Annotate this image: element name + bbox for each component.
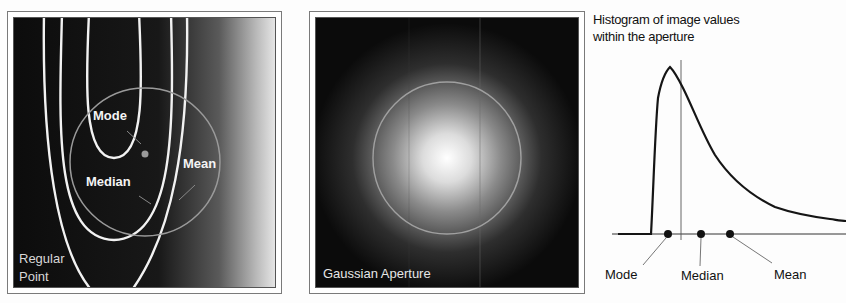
median-marker — [697, 230, 705, 238]
gaussian-aperture-diagram: Gaussian Aperture — [316, 18, 579, 288]
median-label: Median — [86, 174, 131, 189]
mean-label: Mean — [183, 156, 216, 171]
mode-label: Mode — [93, 108, 127, 123]
regular-point-diagram: Mode Median Mean Regular Point — [14, 18, 276, 288]
gaussian-aperture-caption: Gaussian Aperture — [323, 266, 431, 281]
caption-line-1: Regular — [19, 251, 65, 266]
regular-point-image: Mode Median Mean Regular Point — [13, 17, 276, 288]
mode-marker-label: Mode — [605, 267, 638, 282]
gaussian-aperture-panel: Gaussian Aperture — [309, 11, 585, 294]
mean-marker-label: Mean — [774, 267, 807, 282]
gaussian-aperture-image: Gaussian Aperture — [315, 17, 579, 288]
mean-marker — [726, 230, 734, 238]
histogram-curve — [618, 67, 846, 234]
regular-point-panel: Mode Median Mean Regular Point — [7, 11, 282, 294]
mode-marker — [664, 230, 672, 238]
center-point — [142, 151, 149, 158]
histogram-chart: Mode Median Mean — [585, 0, 846, 303]
caption-line-2: Point — [19, 269, 49, 284]
median-marker-label: Median — [681, 268, 724, 283]
